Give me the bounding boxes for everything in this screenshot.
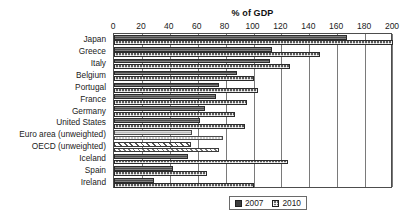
bar-2010	[114, 124, 245, 129]
bar-2010	[114, 40, 393, 45]
legend-label: 2010	[282, 198, 300, 208]
bar-2007	[114, 94, 216, 99]
y-axis-category-label: Belgium	[76, 70, 106, 80]
y-axis-category-label: Portugal	[75, 82, 106, 92]
bar-2010	[114, 52, 320, 57]
y-axis-category-label: Euro area (unweighted)	[19, 129, 106, 139]
y-axis-category-label: Italy	[91, 58, 106, 68]
bar-row	[114, 141, 391, 153]
x-axis-tick-label: 200	[385, 21, 399, 31]
bar-row	[114, 165, 391, 177]
bar-2010	[114, 76, 254, 81]
bar-2007	[114, 83, 219, 88]
bar-chart: % of GDP 020406080100120140160180200 Jap…	[0, 0, 416, 224]
bar-2007	[114, 166, 173, 171]
bar-rows	[114, 34, 391, 187]
y-axis-category-label: United States	[56, 117, 106, 127]
legend-item-2010[interactable]: 2010	[272, 198, 300, 208]
bar-row	[114, 58, 391, 70]
bar-2007	[114, 130, 192, 135]
bar-2010	[114, 183, 254, 188]
bar-row	[114, 82, 391, 94]
bar-2007	[114, 47, 272, 52]
x-axis-tick-label: 20	[136, 21, 145, 31]
chart-axis-title: % of GDP	[113, 8, 392, 18]
bar-row	[114, 46, 391, 58]
bar-row	[114, 129, 391, 141]
y-axis-category-label: Spain	[85, 165, 106, 175]
legend-swatch-icon	[272, 200, 279, 207]
x-axis-tick-label: 80	[220, 21, 229, 31]
x-axis-tick-label: 180	[357, 21, 371, 31]
bar-row	[114, 153, 391, 165]
bar-2010	[114, 136, 223, 141]
y-axis-category-label: Greece	[79, 46, 106, 56]
bar-2010	[114, 171, 207, 176]
x-axis-tick-label: 60	[192, 21, 201, 31]
y-axis-category-label: France	[80, 94, 106, 104]
legend-swatch-icon	[235, 200, 242, 207]
x-axis-tick-label: 40	[164, 21, 173, 31]
gridline	[392, 34, 393, 187]
bar-2010	[114, 100, 247, 105]
bar-row	[114, 177, 391, 189]
bar-2007	[114, 178, 154, 183]
legend-label: 2007	[245, 198, 263, 208]
y-axis-category-label: Germany	[72, 106, 106, 116]
bar-2010	[114, 88, 258, 93]
y-axis-category-label: Ireland	[81, 177, 106, 187]
legend-item-2007[interactable]: 2007	[235, 198, 263, 208]
bar-2007	[114, 106, 205, 111]
x-axis-tick-label: 100	[245, 21, 259, 31]
bar-2010	[114, 64, 290, 69]
bar-row	[114, 34, 391, 46]
bar-2007	[114, 71, 237, 76]
bar-2007	[114, 35, 347, 40]
y-axis-category-labels: JapanGreeceItalyBelgiumPortugalFranceGer…	[0, 33, 110, 188]
bar-row	[114, 70, 391, 82]
bar-row	[114, 106, 391, 118]
x-axis-tick-label: 160	[329, 21, 343, 31]
bar-2007	[114, 154, 188, 159]
chart-legend: 2007 2010	[229, 196, 307, 210]
y-axis-category-label: OECD (unweighted)	[32, 141, 106, 151]
plot-area	[113, 33, 392, 188]
bar-2010	[114, 148, 219, 153]
bar-2007	[114, 59, 270, 64]
y-axis-category-label: Iceland	[79, 153, 106, 163]
y-axis-category-label: Japan	[83, 34, 106, 44]
bar-2010	[114, 160, 288, 165]
bar-row	[114, 117, 391, 129]
x-axis-tick-label: 120	[273, 21, 287, 31]
bar-2007	[114, 118, 200, 123]
x-axis-tick-label: 0	[111, 21, 116, 31]
bar-2010	[114, 112, 235, 117]
bar-2007	[114, 142, 191, 147]
x-axis-tick-label: 140	[301, 21, 315, 31]
x-axis-tick-labels: 020406080100120140160180200	[113, 21, 392, 33]
bar-row	[114, 94, 391, 106]
